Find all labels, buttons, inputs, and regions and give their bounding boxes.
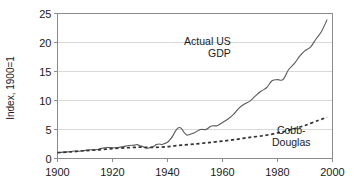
gridlines-group bbox=[58, 14, 333, 130]
y-axis-tick-labels: 0510152025 bbox=[39, 8, 51, 165]
annotation-line: GDP bbox=[208, 47, 231, 59]
x-tick-label-1940: 1940 bbox=[155, 166, 179, 178]
x-tick-label-2000: 2000 bbox=[320, 166, 344, 178]
y-axis-title: Index, 1900=1 bbox=[5, 56, 16, 120]
chart-container: 0510152025 190019201940196019802000 Actu… bbox=[0, 0, 354, 194]
x-tick-label-1980: 1980 bbox=[265, 166, 289, 178]
x-tick-label-1960: 1960 bbox=[210, 166, 234, 178]
x-axis-tick-labels: 190019201940196019802000 bbox=[45, 166, 344, 178]
annotation-line: Douglas bbox=[272, 136, 311, 148]
x-tick-label-1920: 1920 bbox=[100, 166, 124, 178]
x-tick-label-1900: 1900 bbox=[45, 166, 69, 178]
annotation-cobb-douglas: Cobb-Douglas bbox=[272, 124, 311, 148]
annotation-line: Cobb- bbox=[277, 124, 306, 136]
y-tick-label-15: 15 bbox=[39, 66, 51, 78]
y-tick-label-20: 20 bbox=[39, 37, 51, 49]
annotation-actual-us-gdp: Actual USGDP bbox=[184, 35, 231, 59]
y-tick-label-25: 25 bbox=[39, 8, 51, 20]
y-tick-label-10: 10 bbox=[39, 95, 51, 107]
y-tick-label-5: 5 bbox=[45, 124, 51, 136]
annotation-line: Actual US bbox=[184, 35, 231, 47]
gdp-vs-cobb-douglas-chart: 0510152025 190019201940196019802000 Actu… bbox=[0, 0, 354, 194]
y-tick-label-0: 0 bbox=[45, 153, 51, 165]
series-annotations: Actual USGDPCobb-Douglas bbox=[184, 35, 310, 148]
